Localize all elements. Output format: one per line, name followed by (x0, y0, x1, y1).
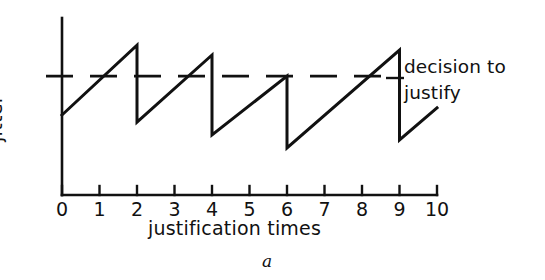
figure-caption: a (262, 253, 272, 270)
x-tick-label-10: 10 (425, 198, 449, 220)
decision-threshold-label-line1: decision to (404, 58, 506, 77)
x-tick-label-1: 1 (93, 198, 105, 220)
y-axis-title: jitter (0, 120, 56, 142)
x-tick-label-0: 0 (56, 198, 68, 220)
jitter-waveform (62, 45, 437, 148)
x-axis-ticks (62, 186, 437, 195)
figure-panel: 0 1 2 3 4 5 6 7 8 9 10 jitter justificat… (0, 0, 545, 280)
x-tick-label-2: 2 (131, 198, 143, 220)
decision-threshold-label-line2: justify (404, 84, 461, 103)
x-axis-title: justification times (148, 219, 321, 238)
x-tick-label-9: 9 (393, 198, 405, 220)
x-tick-label-8: 8 (356, 198, 368, 220)
